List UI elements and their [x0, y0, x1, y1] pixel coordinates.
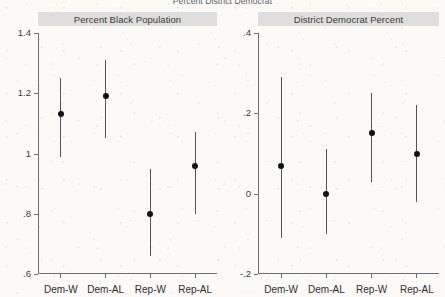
- y-tick-left-0: 1.4: [34, 33, 38, 34]
- x-tick-left-2: Rep-W: [150, 274, 151, 278]
- y-tick-left-1: 1.2: [34, 93, 38, 94]
- x-tick-right-0: Dem-W: [281, 274, 282, 278]
- data-point-left-rep-al: [192, 163, 198, 169]
- ci-whisker-left-dem-al: [105, 60, 106, 138]
- y-tick-label-left-2: 1: [26, 148, 31, 159]
- x-tick-label-left-rep-al: Rep-AL: [178, 284, 212, 295]
- x-tick-left-3: Rep-AL: [195, 274, 196, 278]
- y-tick-label-left-1: 1.2: [18, 87, 31, 98]
- panel-title-left: Percent Black Population: [74, 14, 181, 25]
- x-tick-label-right-dem-al: Dem-AL: [308, 284, 345, 295]
- y-tick-left-4: .6: [34, 274, 38, 275]
- y-tick-label-right-0: .4: [243, 27, 251, 38]
- plot-area-right: .4.20-.2Dem-WDem-ALRep-WRep-AL: [258, 33, 439, 274]
- data-point-right-rep-al: [414, 151, 420, 157]
- ci-whisker-left-rep-al: [195, 132, 196, 213]
- x-tick-label-left-rep-w: Rep-W: [135, 284, 166, 295]
- x-tick-left-1: Dem-AL: [105, 274, 106, 278]
- y-tick-right-3: -.2: [254, 274, 258, 275]
- y-axis-line-right: [258, 33, 259, 274]
- y-tick-left-3: .8: [34, 214, 38, 215]
- y-tick-right-2: 0: [254, 194, 258, 195]
- data-point-right-dem-al: [323, 191, 329, 197]
- data-point-right-dem-w: [278, 163, 284, 169]
- panel-title-right: District Democrat Percent: [294, 14, 403, 25]
- y-tick-right-0: .4: [254, 33, 258, 34]
- ci-whisker-right-dem-w: [281, 77, 282, 238]
- x-tick-label-right-dem-w: Dem-W: [264, 284, 298, 295]
- x-tick-label-right-rep-al: Rep-AL: [400, 284, 434, 295]
- ci-whisker-left-dem-w: [60, 78, 61, 156]
- y-tick-label-left-3: .8: [23, 208, 31, 219]
- x-tick-label-right-rep-w: Rep-W: [356, 284, 387, 295]
- x-tick-right-1: Dem-AL: [326, 274, 327, 278]
- ci-whisker-right-rep-w: [371, 93, 372, 181]
- data-point-left-dem-al: [103, 93, 109, 99]
- figure-suptitle: Percent District Democrat: [0, 0, 445, 6]
- data-point-left-rep-w: [147, 211, 153, 217]
- y-tick-label-left-0: 1.4: [18, 27, 31, 38]
- y-tick-label-left-4: .6: [23, 268, 31, 279]
- plot-area-left: 1.41.21.8.6Dem-WDem-ALRep-WRep-AL: [38, 33, 217, 274]
- panel-title-bar-right: District Democrat Percent: [258, 12, 439, 26]
- x-tick-left-0: Dem-W: [60, 274, 61, 278]
- x-tick-label-left-dem-w: Dem-W: [44, 284, 78, 295]
- y-tick-right-1: .2: [254, 113, 258, 114]
- x-tick-label-left-dem-al: Dem-AL: [87, 284, 124, 295]
- y-tick-label-right-1: .2: [243, 107, 251, 118]
- data-point-right-rep-w: [369, 130, 375, 136]
- panel-title-bar-left: Percent Black Population: [38, 12, 217, 26]
- y-tick-label-right-2: 0: [246, 188, 251, 199]
- x-axis-line-left: [38, 273, 217, 274]
- y-axis-line-left: [38, 33, 39, 274]
- x-tick-right-2: Rep-W: [371, 274, 372, 278]
- x-axis-line-right: [258, 273, 439, 274]
- data-point-left-dem-w: [58, 111, 64, 117]
- y-tick-left-2: 1: [34, 154, 38, 155]
- y-tick-label-right-3: -.2: [240, 268, 251, 279]
- x-tick-right-3: Rep-AL: [416, 274, 417, 278]
